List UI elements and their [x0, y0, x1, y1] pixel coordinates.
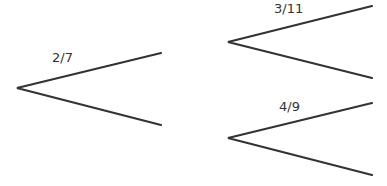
label-first-branch: 2/7 [52, 51, 73, 64]
branch-second-top [228, 6, 372, 78]
branch-second-bottom [228, 103, 372, 175]
label-second-bottom-branch: 4/9 [279, 100, 300, 113]
probability-tree-diagram: 2/7 3/11 4/9 [0, 0, 387, 186]
label-second-top-branch: 3/11 [274, 2, 303, 15]
branch-first [17, 53, 161, 125]
tree-branches [0, 0, 387, 186]
